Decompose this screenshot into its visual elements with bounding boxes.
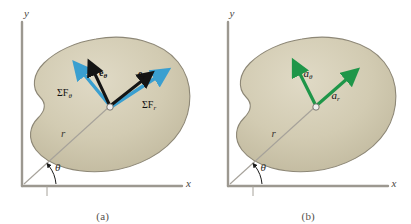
panel-b-graphic [206,0,411,224]
unit-vector-e-r-label: er [138,69,145,81]
x-axis-label: x [392,178,397,189]
panel-b-caption: (b) [206,210,411,222]
theta-angle-label: θ [55,162,60,173]
particle-marker [312,104,318,110]
panel-a-graphic [0,0,205,224]
radial-distance-label: r [272,128,276,139]
acceleration-r-label: ar [332,90,340,103]
x-axis-label: x [186,178,191,189]
acceleration-theta-label: aθ [304,68,313,81]
y-axis-label: y [24,8,29,19]
particle-marker [107,104,113,110]
panel-b: y x r θ aθ ar (b) [206,0,411,224]
panel-a: y x r θ eθ er ΣFθ ΣFr (a) [0,0,206,224]
y-axis-label: y [230,8,235,19]
radial-distance-label: r [61,128,65,139]
polar-coordinates-figure: y x r θ eθ er ΣFθ ΣFr (a) [0,0,411,224]
panel-a-caption: (a) [0,210,206,222]
theta-angle-label: θ [261,162,266,173]
force-sum-r-label: ΣFr [142,100,156,112]
unit-vector-e-theta-label: eθ [99,68,107,80]
force-sum-theta-label: ΣFθ [57,88,72,100]
